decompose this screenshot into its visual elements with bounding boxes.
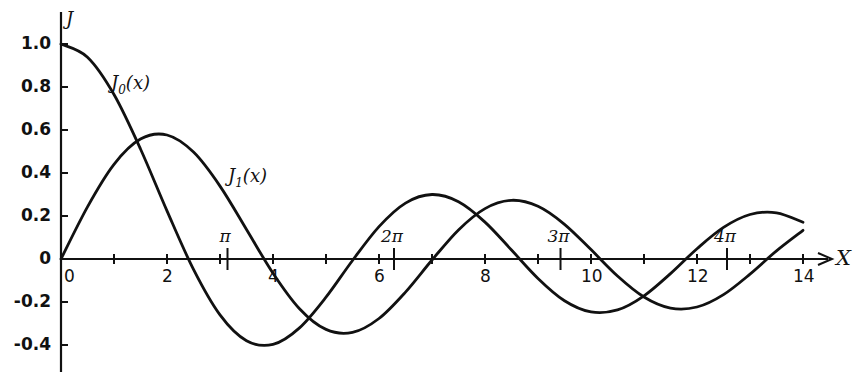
y-tick-label: 0.4	[1, 164, 51, 181]
y-tick-label: 0.8	[1, 78, 51, 95]
bessel-plot	[0, 0, 861, 383]
x-tick-label: 6	[374, 268, 385, 285]
y-tick-label: 0.6	[1, 121, 51, 138]
x-tick-label: 8	[480, 268, 491, 285]
y-tick-label: 0	[1, 250, 51, 267]
y-axis-title: J	[66, 10, 73, 28]
j0-series-label: J0(x)	[111, 74, 150, 96]
x-axis-title: X	[836, 248, 851, 269]
pi-tick-label: 3π	[548, 228, 570, 245]
pi-tick-label: 4π	[714, 228, 736, 245]
x-tick-label: 10	[581, 268, 603, 285]
y-tick-label: -0.2	[1, 293, 51, 310]
y-tick-label: 0.2	[1, 207, 51, 224]
j0-curve	[61, 44, 803, 345]
y-tick-label: 1.0	[1, 35, 51, 52]
j1-series-label: J1(x)	[228, 167, 267, 189]
x-tick-label: 4	[268, 268, 279, 285]
pi-tick-label: π	[220, 228, 231, 245]
x-tick-label: 14	[793, 268, 815, 285]
pi-tick-label: 2π	[381, 228, 403, 245]
y-tick-label: -0.4	[1, 336, 51, 353]
x-tick-label: 12	[687, 268, 709, 285]
x-tick-label: 0	[64, 268, 75, 285]
x-tick-label: 2	[162, 268, 173, 285]
j1-curve	[61, 134, 803, 333]
